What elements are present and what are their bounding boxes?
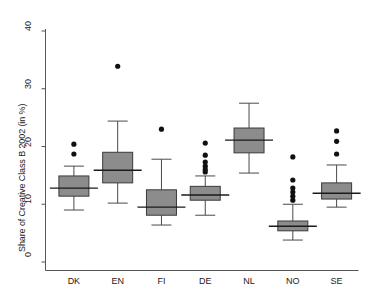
box-iqr — [190, 186, 220, 200]
y-tick-label: 20 — [23, 137, 33, 155]
outlier-point — [290, 154, 295, 159]
y-tick-label: 10 — [23, 194, 33, 212]
outlier-point — [203, 153, 208, 158]
box-plot-figure: Share of Creative Class B 2002 (in %) 01… — [0, 0, 382, 306]
y-tick-label: 30 — [23, 79, 33, 97]
outlier-point — [159, 127, 164, 132]
outlier-point — [290, 185, 295, 190]
outlier-point — [334, 139, 339, 144]
box-iqr — [103, 152, 133, 183]
outlier-point — [71, 151, 76, 156]
outlier-point — [290, 177, 295, 182]
x-tick-label-de: DE — [185, 276, 225, 286]
outlier-point — [203, 159, 208, 164]
box-iqr — [322, 183, 352, 199]
box-iqr — [146, 190, 176, 215]
y-tick-label: 40 — [23, 21, 33, 39]
x-tick-label-fi: FI — [141, 276, 181, 286]
y-axis-title: Share of Creative Class B 2002 (in %) — [17, 104, 27, 252]
box-group-fi — [137, 127, 185, 225]
outlier-point — [203, 140, 208, 145]
plot-area — [0, 0, 382, 306]
box-group-no — [269, 154, 317, 240]
box-group-se — [313, 128, 361, 207]
box-group-dk — [50, 142, 98, 210]
box-iqr — [59, 176, 89, 196]
y-tick-label: 0 — [23, 252, 33, 270]
box-group-de — [181, 140, 229, 215]
outlier-point — [71, 142, 76, 147]
outlier-point — [334, 151, 339, 156]
x-tick-label-en: EN — [98, 276, 138, 286]
x-tick-label-nl: NL — [229, 276, 269, 286]
x-tick-label-se: SE — [317, 276, 357, 286]
x-tick-label-dk: DK — [54, 276, 94, 286]
outlier-point — [334, 128, 339, 133]
box-group-en — [94, 64, 142, 203]
box-group-nl — [225, 103, 273, 173]
outlier-point — [115, 64, 120, 69]
x-tick-label-no: NO — [273, 276, 313, 286]
